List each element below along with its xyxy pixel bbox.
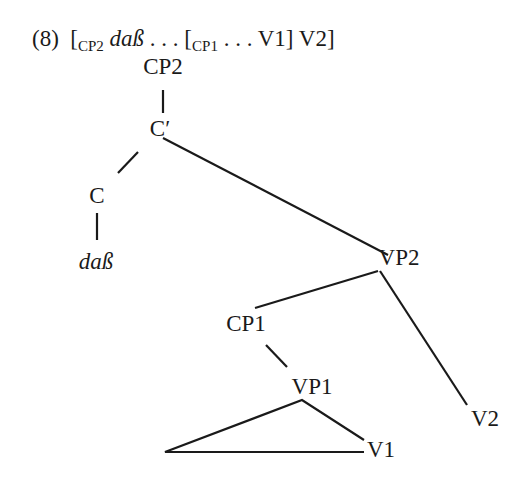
node-v2: V2 [471, 406, 499, 432]
edge-cbar-c [118, 152, 138, 173]
node-vp2: VP2 [379, 245, 420, 271]
edge-cbar-vp2 [163, 138, 388, 255]
edge-vp2-cp1 [255, 271, 378, 308]
node-cp1: CP1 [226, 311, 266, 337]
node-cp2: CP2 [143, 54, 183, 80]
node-dass: daß [79, 249, 114, 275]
node-v1: V1 [367, 437, 395, 463]
vp1-triangle [165, 400, 364, 452]
node-c: C [89, 183, 104, 209]
edge-cp1-vp1 [266, 345, 287, 367]
node-cbar: C′ [150, 116, 170, 142]
node-vp1: VP1 [292, 374, 333, 400]
edge-vp2-v2 [380, 271, 467, 405]
tree-edges [0, 0, 523, 486]
